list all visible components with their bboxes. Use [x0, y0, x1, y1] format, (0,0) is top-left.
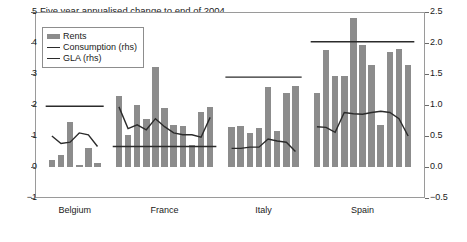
- legend-line-swatch-icon: [47, 47, 60, 48]
- legend-label-rents: Rents: [63, 31, 87, 42]
- legend-line-swatch-icon: [47, 58, 60, 59]
- consumption-line: [317, 111, 408, 136]
- legend-item-consumption: Consumption (rhs): [47, 42, 137, 53]
- legend-bar-swatch-icon: [47, 34, 60, 39]
- legend-label-gla: GLA (rhs): [63, 53, 102, 64]
- legend-item-gla: GLA (rhs): [47, 53, 137, 64]
- consumption-line: [119, 107, 210, 137]
- chart-legend: Rents Consumption (rhs) GLA (rhs): [42, 27, 144, 68]
- consumption-line: [232, 139, 296, 151]
- legend-item-rents: Rents: [47, 31, 137, 42]
- chart-container: Five year annualised change to end of 20…: [0, 0, 467, 242]
- consumption-line: [52, 133, 98, 147]
- legend-label-consumption: Consumption (rhs): [63, 42, 137, 53]
